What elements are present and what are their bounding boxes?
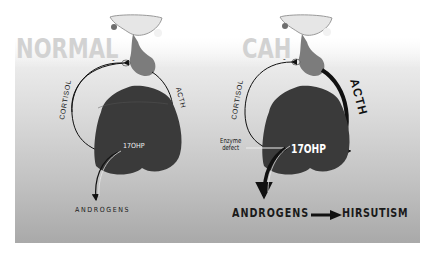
normal-17ohp-label: 17OHP: [123, 143, 145, 150]
normal-androgens-label: ANDROGENS: [75, 207, 130, 214]
normal-acth-label: ACTH: [175, 86, 187, 109]
normal-cortisol-label: CORTISOL: [58, 79, 72, 120]
cah-cortisol-label: CORTISOL: [230, 79, 244, 120]
cah-minus-sign: -: [283, 54, 286, 63]
enzyme-defect-label: Enzyme defect: [220, 138, 241, 152]
cah-hypothalamus-icon: [280, 15, 332, 36]
normal-pituitary-icon: [122, 34, 155, 76]
hirsutism-label: HIRSUTISM: [342, 206, 408, 219]
cah-pituitary-icon: [292, 34, 324, 76]
cah-acth-label: ACTH: [347, 77, 370, 117]
cah-androgens-label: ANDROGENS: [232, 206, 309, 219]
normal-hypothalamus-icon: [110, 15, 162, 37]
enzyme-defect-line2: defect: [220, 145, 241, 152]
normal-minus-sign: -: [112, 55, 115, 64]
cah-17ohp-label: 17OHP: [291, 143, 326, 155]
normal-adrenal-gland-icon: [94, 86, 181, 175]
